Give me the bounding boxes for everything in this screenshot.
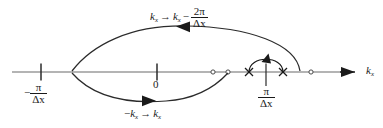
- pi-over-delta-x-fraction: πΔx: [258, 86, 275, 109]
- open-circle-a: [211, 70, 215, 74]
- right-arrow-icon: →: [138, 107, 153, 119]
- fraction-denominator: Δx: [30, 94, 47, 105]
- right-arrow-icon: →: [158, 10, 173, 22]
- pi-over-delta-x-fraction: πΔx: [30, 82, 47, 105]
- bottom-transform-label: −kx→kx: [124, 108, 161, 121]
- fraction-denominator: Δx: [258, 98, 275, 109]
- open-circle-c: [309, 70, 313, 74]
- figure-canvas: kx→kx−2πΔx −kx→kx −πΔx 0 πΔx kx: [0, 0, 383, 128]
- bottom-label-rhs-sub: x: [158, 113, 161, 120]
- top-transform-label: kx→kx−2πΔx: [150, 6, 208, 29]
- tick-label-pi-over-dx: πΔx: [258, 86, 275, 109]
- fraction-denominator: Δx: [191, 18, 208, 29]
- lower-reflect-arrow: [72, 73, 228, 106]
- tick-label-zero: 0: [153, 79, 159, 90]
- axis-label-kx: kx: [366, 65, 374, 78]
- tick-label-minus-pi-over-dx: −πΔx: [24, 82, 47, 105]
- axis-label-sub: x: [371, 70, 374, 77]
- minus-sign: −: [181, 10, 191, 22]
- two-pi-over-delta-x-fraction: 2πΔx: [191, 6, 208, 29]
